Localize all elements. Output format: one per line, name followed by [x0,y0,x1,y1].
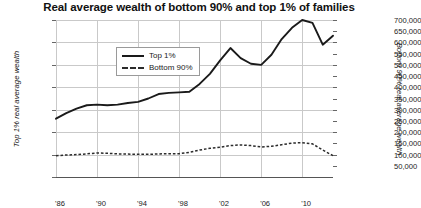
y-axis-left-title: Top 1% real average wealth [12,29,21,169]
y-axis-left-tick-mark [52,87,56,88]
y-axis-right-tick-mark [333,155,337,156]
x-axis-tick-label: '90 [96,199,106,208]
legend-label: Top 1% [149,51,176,60]
y-axis-right-tick-label: 200,000 [394,128,421,137]
y-axis-left-tick-mark [52,177,56,178]
y-axis-left-tick-mark [52,42,56,43]
y-axis-right-tick-label: 150,000 [394,139,421,148]
y-axis-left-tick-mark [52,65,56,66]
y-axis-right-tick-mark [333,110,337,111]
y-axis-right-tick-label: 400,000 [394,83,421,92]
y-axis-right-tick-label: 50,000 [394,161,417,170]
y-axis-right-tick-mark [333,54,337,55]
plot-area: Top 1% Bottom 90% 02,000,0004,000,0006,0… [56,20,333,178]
line-bottom-90-percent [56,143,333,156]
series-lines [56,20,333,177]
y-axis-left-tick-mark [52,110,56,111]
y-axis-right-tick-mark [333,87,337,88]
y-axis-right-tick-mark [333,76,337,77]
y-axis-right-tick-mark [333,121,337,122]
y-axis-right-tick-mark [333,99,337,100]
y-axis-right-tick-mark [333,20,337,21]
x-axis-tick-label: '02 [219,199,229,208]
y-axis-right-tick-mark [333,65,337,66]
y-axis-right-tick-label: 100,000 [394,150,421,159]
y-axis-right-tick-mark [333,42,337,43]
y-axis-right-tick-label: 650,000 [394,27,421,36]
y-axis-right-tick-mark [333,166,337,167]
y-axis-right-tick-label: 550,000 [394,49,421,58]
legend-line-dotted-icon [122,64,144,71]
y-axis-right-tick-label: 450,000 [394,72,421,81]
y-axis-right-tick-label: 500,000 [394,60,421,69]
y-axis-right-tick-label: 250,000 [394,116,421,125]
legend-item-bottom-90-percent: Bottom 90% [122,63,193,72]
y-axis-right-tick-label: 350,000 [394,94,421,103]
y-axis-right-tick-label: 300,000 [394,105,421,114]
chart-title: Real average wealth of bottom 90% and to… [0,1,398,13]
y-axis-right-tick-mark [333,132,337,133]
x-axis-tick-label: '98 [178,199,188,208]
x-axis-tick-label: '06 [260,199,270,208]
y-axis-right-tick-label: 600,000 [394,38,421,47]
x-axis-tick-label: '10 [301,199,311,208]
y-axis-left-tick-mark [52,20,56,21]
y-axis-left-tick-mark [52,132,56,133]
x-axis-tick-label: '94 [137,199,147,208]
legend-item-top-1-percent: Top 1% [122,51,193,60]
y-axis-right-tick-mark [333,31,337,32]
y-axis-right-tick-mark [333,143,337,144]
legend-line-solid-icon [122,52,144,59]
legend-label: Bottom 90% [149,63,193,72]
x-axis-tick-label: '86 [55,199,65,208]
chart-legend: Top 1% Bottom 90% [116,47,200,76]
y-axis-right-tick-label: 700,000 [394,16,421,25]
y-axis-left-tick-mark [52,155,56,156]
